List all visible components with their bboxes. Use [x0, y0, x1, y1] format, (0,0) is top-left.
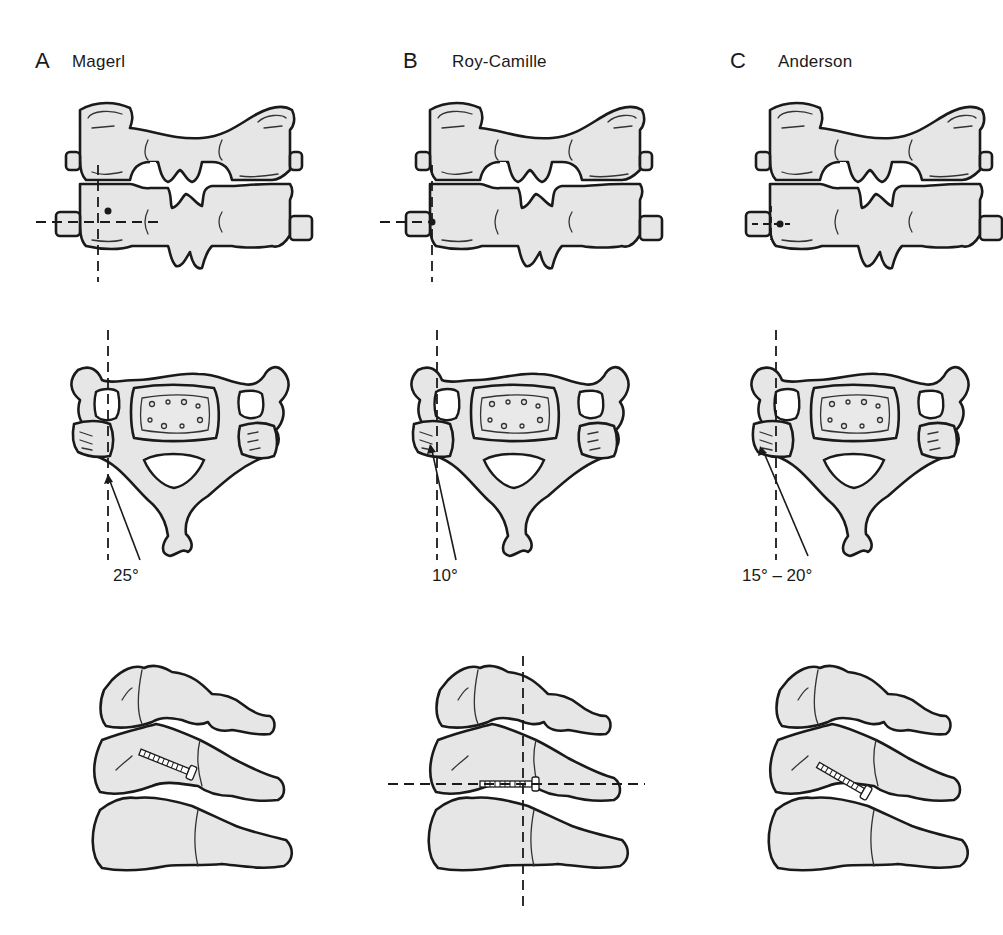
figure-canvas — [0, 0, 1003, 935]
axial-view-b — [411, 367, 628, 556]
lateral-view-b — [429, 666, 628, 870]
posterior-view-a — [56, 103, 312, 268]
angle-label-roy-camille: 10° — [432, 566, 458, 586]
angle-label-magerl: 25° — [113, 566, 139, 586]
posterior-view-c — [746, 103, 1002, 268]
angle-label-anderson: 15° – 20° — [742, 566, 812, 586]
axial-view-a — [71, 367, 288, 556]
axial-view-c — [751, 367, 968, 556]
lateral-view-c — [769, 666, 968, 870]
posterior-view-b — [406, 103, 662, 268]
